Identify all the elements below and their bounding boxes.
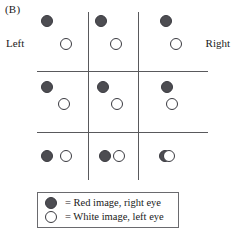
red-image-dot xyxy=(41,15,53,27)
red-image-dot xyxy=(160,15,172,27)
white-image-dot xyxy=(163,150,175,162)
open-circle-icon xyxy=(45,211,58,224)
stereo-fusion-figure: (B) Left Right = Red image, right eye = … xyxy=(0,0,235,234)
grid-line-horizontal-1 xyxy=(37,71,208,72)
red-image-dot xyxy=(161,81,173,93)
grid-line-vertical-1 xyxy=(88,12,89,180)
white-image-dot xyxy=(170,38,182,50)
red-image-dot xyxy=(41,81,53,93)
white-image-dot xyxy=(60,38,72,50)
grid-line-vertical-2 xyxy=(138,12,139,180)
white-image-dot xyxy=(58,98,70,110)
right-eye-label: Right xyxy=(206,37,230,49)
white-image-dot xyxy=(166,98,178,110)
legend: = Red image, right eye = White image, le… xyxy=(37,192,179,228)
red-image-dot xyxy=(99,150,111,162)
red-image-dot xyxy=(97,81,109,93)
legend-label-red: = Red image, right eye xyxy=(65,198,161,209)
white-image-dot xyxy=(60,150,72,162)
red-image-dot xyxy=(95,15,107,27)
white-image-dot xyxy=(111,98,123,110)
panel-label: (B) xyxy=(5,3,20,15)
grid-line-horizontal-2 xyxy=(37,132,208,133)
legend-item-red: = Red image, right eye xyxy=(45,196,161,211)
legend-item-white: = White image, left eye xyxy=(45,210,164,225)
white-image-dot xyxy=(113,150,125,162)
white-image-dot xyxy=(110,38,122,50)
legend-label-white: = White image, left eye xyxy=(65,212,164,223)
filled-circle-icon xyxy=(45,197,58,210)
left-eye-label: Left xyxy=(6,37,24,49)
red-image-dot xyxy=(41,150,53,162)
